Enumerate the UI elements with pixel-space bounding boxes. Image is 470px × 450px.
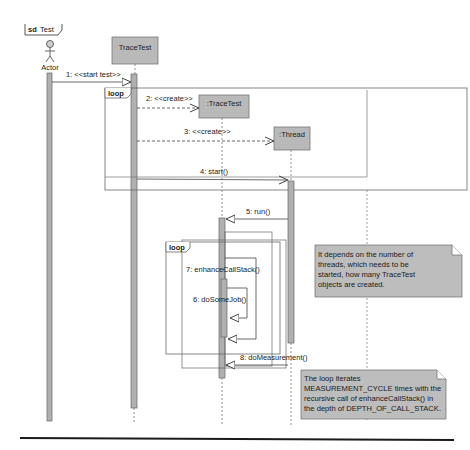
message-label: 6: doSomeJob() (193, 295, 247, 304)
nested-activation-bar (221, 279, 227, 337)
note-line: objects are created. (318, 280, 385, 289)
actor-label: Actor (41, 63, 59, 72)
frame-tab: sd Test (25, 24, 62, 35)
note-line: MEASUREMENT_CYCLE times with the (304, 384, 441, 393)
note-line: The loop iterates (304, 374, 361, 383)
participant-label: TraceTest (119, 43, 153, 52)
thread-activation-bar (288, 181, 294, 343)
actor-stick-figure-icon (45, 41, 55, 63)
note-line: It depends on the number of (318, 250, 414, 259)
note-line: started, how many TraceTest (318, 270, 416, 279)
participant-tracetest-main: TraceTest (112, 37, 158, 64)
message-3: 3: <<create>> (137, 127, 274, 141)
message-1: 1: <<start test>> (52, 70, 131, 82)
sequence-diagram: sd Test Actor TraceTest 1: <<start test>… (0, 0, 470, 450)
participant-label: :TraceTest (207, 99, 243, 108)
note-thread-count: It depends on the number of threads, whi… (315, 245, 462, 297)
loop-label: loop (108, 89, 124, 98)
participant-thread: :Thread (274, 127, 310, 150)
message-label: 4: start() (200, 167, 228, 176)
message-label: 1: <<start test>> (66, 70, 121, 79)
actor-activation-bar (47, 73, 52, 421)
participant-tracetest-created: :TraceTest (199, 95, 249, 118)
note-line: recursive call of enhanceCallStack() in (304, 394, 433, 403)
footer-rule (20, 438, 454, 440)
note-line: the depth of DEPTH_OF_CALL_STACK. (304, 404, 441, 413)
message-2: 2: <<create>> (137, 94, 199, 108)
participant-label: :Thread (279, 130, 305, 139)
message-8: 8: doMeasurement() (226, 353, 308, 365)
frame-keyword: sd (28, 25, 37, 34)
message-5: 5: run() (226, 207, 288, 219)
note-line: threads, which needs to be (318, 260, 409, 269)
loop-label: loop (169, 243, 185, 252)
note-loop-description: The loop iterates MEASUREMENT_CYCLE time… (301, 370, 446, 419)
message-label: 8: doMeasurement() (240, 353, 308, 362)
message-label: 5: run() (246, 207, 271, 216)
message-label: 2: <<create>> (146, 94, 193, 103)
message-label: 3: <<create>> (184, 127, 231, 136)
recursion-wrapper-mid (182, 240, 286, 368)
message-4: 4: start() (137, 167, 288, 180)
frame-name: Test (40, 25, 55, 34)
tracetest-main-activation-bar (131, 74, 137, 408)
actor-participant: Actor (41, 41, 59, 73)
message-label: 7: enhanceCallStack() (186, 265, 260, 274)
